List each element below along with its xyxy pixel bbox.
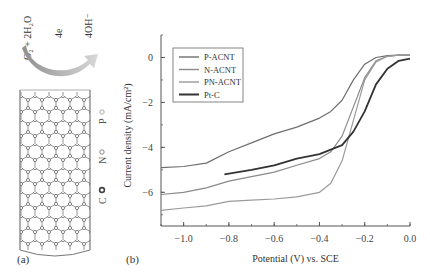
- legend-c-label: C: [97, 197, 108, 204]
- reaction-equation: O₂ + 2H₂O 4e 4OH⁻: [22, 13, 94, 60]
- legend-label: N-ACNT: [204, 65, 237, 75]
- x-tick-label: −0.2: [356, 233, 374, 244]
- y-tick-label: 0: [148, 52, 153, 63]
- y-axis-label: Current density (mA/cm²): [122, 83, 134, 187]
- legend-p-label: P: [97, 118, 108, 124]
- y-tick-label: −2: [142, 97, 153, 108]
- panel-b-chart: −1.0−0.8−0.6−0.4−0.20.00−2−4−6Potential …: [120, 0, 430, 278]
- phosphorus-marker-icon: [100, 110, 104, 114]
- panel-a-label: (a): [17, 253, 29, 265]
- legend-n-label: N: [97, 157, 108, 164]
- x-tick-label: −1.0: [175, 233, 193, 244]
- carbon-nanotube: [20, 90, 90, 256]
- nitrogen-marker-icon: [100, 150, 104, 154]
- x-axis-label: Potential (V) vs. SCE: [252, 253, 339, 265]
- product-label: 4OH⁻: [83, 13, 94, 38]
- panel-b-label: (b): [126, 253, 139, 265]
- x-tick-label: −0.6: [265, 233, 283, 244]
- x-tick-label: 0.0: [404, 233, 417, 244]
- reaction-arrow-icon: [22, 45, 98, 76]
- y-tick-label: −6: [142, 187, 153, 198]
- legend-label: Pt-C: [204, 90, 220, 100]
- lsv-chart: −1.0−0.8−0.6−0.4−0.20.00−2−4−6Potential …: [120, 0, 430, 278]
- x-tick-label: −0.8: [220, 233, 238, 244]
- electrons-label: 4e: [53, 28, 64, 38]
- atom-legend: P N C: [97, 110, 108, 204]
- legend-label: P-ACNT: [204, 52, 236, 62]
- series-line-pt-c: [224, 59, 410, 175]
- y-tick-label: −4: [142, 142, 153, 153]
- carbon-marker-icon: [100, 188, 105, 193]
- x-tick-label: −0.4: [310, 233, 328, 244]
- legend-label: PN-ACNT: [204, 77, 242, 87]
